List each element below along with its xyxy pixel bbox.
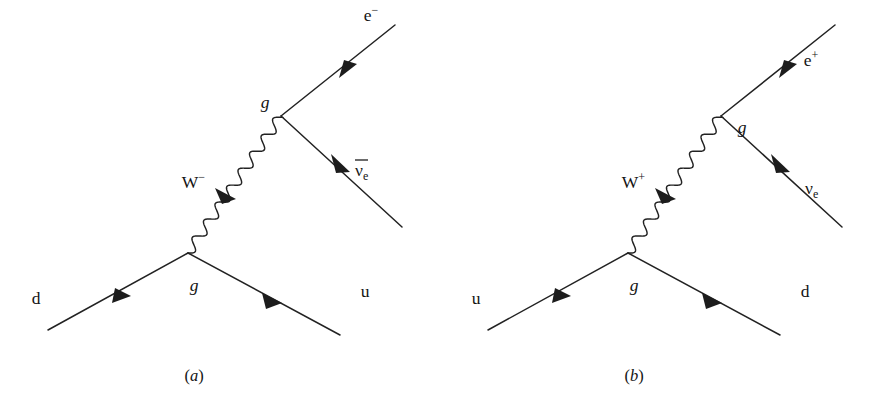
outgoing-fermion-arrow-b [702, 293, 722, 309]
panel-a-group: d u g g W− e− νe (a) [32, 3, 402, 385]
lepton-line-a [281, 25, 395, 116]
lepton-charge-a: − [372, 3, 379, 17]
boson-charge-a: − [198, 170, 205, 184]
neutrino-subscript-b: e [813, 187, 818, 201]
lepton-label-a: e− [364, 3, 379, 25]
incoming-fermion-label-a: d [32, 288, 41, 308]
caption-suffix-a: ) [198, 366, 204, 385]
lepton-charge-b: + [812, 48, 819, 62]
neutrino-arrow-a [331, 154, 350, 173]
outgoing-fermion-arrow-a [262, 293, 282, 309]
boson-label-b: W+ [622, 170, 646, 192]
incoming-fermion-label-b: u [472, 288, 481, 308]
panel-caption-b: (b) [624, 366, 643, 385]
svg-text:νe: νe [355, 160, 368, 183]
lepton-arrow-a [339, 60, 357, 78]
neutrino-glyph-a: ν [355, 160, 363, 180]
caption-suffix-b: ) [638, 366, 644, 385]
upper-vertex-label-b: g [738, 117, 747, 137]
lower-vertex-label-a: g [190, 275, 199, 295]
boson-wave-b-path [628, 117, 723, 253]
boson-wave-b [628, 117, 723, 253]
svg-text:νe: νe [805, 178, 818, 201]
upper-vertex-label-a: g [261, 92, 270, 112]
neutrino-arrow-b [771, 154, 790, 173]
lepton-line-b [721, 25, 835, 116]
boson-label-a: W− [182, 170, 206, 192]
boson-base-b: W [622, 172, 639, 192]
caption-letter-a: a [190, 366, 198, 385]
caption-letter-b: b [630, 366, 638, 385]
boson-charge-b: + [638, 170, 645, 184]
lepton-label-b: e+ [804, 48, 819, 70]
panel-b-group: u d g g W+ e+ νe (b) [472, 25, 842, 385]
neutrino-label-a: νe [355, 160, 368, 183]
diagram-canvas: d u g g W− e− νe (a) [0, 0, 879, 410]
panel-caption-a: (a) [184, 366, 203, 385]
outgoing-fermion-label-b: d [801, 281, 810, 301]
neutrino-label-b: νe [805, 178, 818, 201]
neutrino-glyph-b: ν [805, 178, 813, 198]
boson-wave-a-path [188, 117, 283, 253]
lower-vertex-label-b: g [630, 275, 639, 295]
outgoing-fermion-label-a: u [361, 281, 370, 301]
feynman-figure: d u g g W− e− νe (a) [0, 0, 879, 410]
lepton-arrow-b [779, 60, 797, 78]
boson-wave-a [188, 117, 283, 253]
boson-base-a: W [182, 172, 199, 192]
neutrino-subscript-a: e [363, 169, 368, 183]
